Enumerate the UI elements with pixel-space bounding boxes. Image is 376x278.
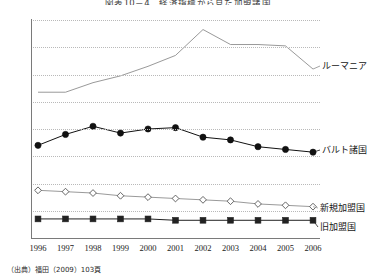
gridline <box>31 102 320 103</box>
series-marker-3 <box>145 216 151 222</box>
series-marker-2 <box>310 203 317 210</box>
series-marker-2 <box>62 188 69 195</box>
series-marker-2 <box>172 195 179 202</box>
series-label-old-members: 旧加盟国 <box>320 222 356 232</box>
series-marker-1 <box>200 134 206 140</box>
page-title: 図表10－4 経済指標から見た加盟諸国 <box>0 0 376 5</box>
x-axis-tick-label: 2001 <box>161 243 191 253</box>
x-axis-tick-label: 2003 <box>216 243 246 253</box>
series-marker-1 <box>282 146 288 152</box>
gridline <box>31 211 320 212</box>
x-axis-tick-label: 1996 <box>23 243 53 253</box>
series-marker-2 <box>282 202 289 209</box>
series-marker-3 <box>228 217 234 223</box>
series-marker-3 <box>35 216 41 222</box>
series-marker-3 <box>63 216 69 222</box>
series-marker-2 <box>145 194 152 201</box>
y-axis-labels: 020406080100120140160 <box>0 0 28 278</box>
series-marker-2 <box>200 196 207 203</box>
series-marker-1 <box>35 142 41 148</box>
x-axis-tick-label: 2005 <box>271 243 301 253</box>
series-marker-1 <box>227 137 233 143</box>
x-axis-tick-label: 1998 <box>78 243 108 253</box>
x-axis-tick-label: 2002 <box>188 243 218 253</box>
series-marker-2 <box>117 192 124 199</box>
gridline <box>31 20 320 21</box>
series-marker-2 <box>90 190 97 197</box>
series-label-new-members: 新規加盟国 <box>320 203 365 213</box>
source-note: （出典）福田（2009）103頁 <box>7 264 101 274</box>
figure-container: 図表10－4 経済指標から見た加盟諸国 02040608010012014016… <box>0 0 376 278</box>
series-marker-3 <box>200 217 206 223</box>
gridline <box>31 47 320 48</box>
x-axis-tick-label: 2004 <box>243 243 273 253</box>
x-axis-tick-label: 1997 <box>51 243 81 253</box>
series-marker-3 <box>283 217 289 223</box>
x-axis-tick-label: 1999 <box>106 243 136 253</box>
plot-area <box>31 20 320 238</box>
series-marker-2 <box>255 201 262 208</box>
series-marker-1 <box>310 149 316 155</box>
series-marker-2 <box>227 198 234 205</box>
gridline <box>31 156 320 157</box>
series-label-baltic: バルト諸国 <box>322 145 367 155</box>
series-line-0 <box>38 30 313 93</box>
series-marker-3 <box>310 217 316 223</box>
series-marker-1 <box>117 130 123 136</box>
x-axis-tick-label: 2000 <box>133 243 163 253</box>
series-marker-1 <box>62 131 68 137</box>
series-marker-3 <box>173 217 179 223</box>
y-axis-line <box>31 19 32 239</box>
series-marker-3 <box>90 216 96 222</box>
series-marker-1 <box>255 144 261 150</box>
series-marker-3 <box>118 216 124 222</box>
gridline <box>31 75 320 76</box>
series-marker-2 <box>35 187 42 194</box>
x-axis-line <box>31 238 320 239</box>
series-label-romania: ルーマニア <box>322 61 367 71</box>
gridline <box>31 129 320 130</box>
series-marker-3 <box>255 217 261 223</box>
gridline <box>31 184 320 185</box>
x-axis-tick-label: 2006 <box>298 243 328 253</box>
